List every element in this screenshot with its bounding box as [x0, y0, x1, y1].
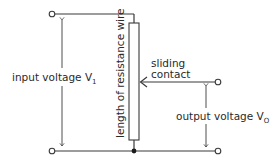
sliding-contact-label-line2: contact [151, 68, 190, 80]
resistance-wire-label: length of resistance wire [114, 9, 126, 139]
input-terminal-top [49, 11, 55, 17]
potential-divider-diagram: input voltage V1 output voltage VO slidi… [0, 0, 280, 165]
input-terminal-bottom [49, 148, 55, 154]
output-terminal-bottom [215, 148, 221, 154]
output-voltage-label: output voltage VO [176, 110, 270, 125]
junction-dot [132, 149, 137, 154]
resistance-wire [129, 23, 139, 140]
input-voltage-label: input voltage V1 [12, 71, 97, 86]
output-terminal-top [215, 79, 221, 85]
